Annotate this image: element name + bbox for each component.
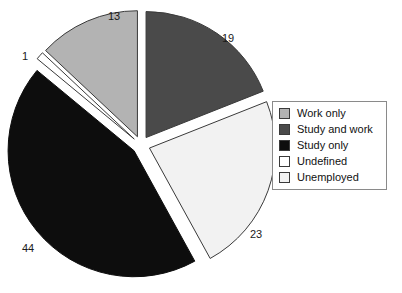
pie-value-label-study-and-work: 19: [222, 32, 234, 44]
pie-value-label-undefined: 1: [22, 50, 28, 62]
legend-item-unemployed[interactable]: Unemployed: [279, 170, 381, 185]
pie-value-label-study-only: 44: [22, 242, 34, 254]
legend-swatch-study-only: [279, 140, 290, 151]
legend-swatch-study-and-work: [279, 124, 290, 135]
pie-slice-group: [8, 11, 275, 277]
legend-swatch-undefined: [279, 156, 290, 167]
legend-item-study-and-work[interactable]: Study and work: [279, 122, 381, 137]
legend-label-study-and-work: Study and work: [297, 124, 373, 135]
legend-swatch-work-only: [279, 108, 290, 119]
legend-item-study-only[interactable]: Study only: [279, 138, 381, 153]
legend-label-work-only: Work only: [297, 108, 346, 119]
legend-item-undefined[interactable]: Undefined: [279, 154, 381, 169]
chart-legend: Work only Study and work Study only Unde…: [272, 101, 387, 190]
legend-label-unemployed: Unemployed: [297, 172, 359, 183]
legend-label-undefined: Undefined: [297, 156, 347, 167]
pie-value-label-work-only: 13: [108, 10, 120, 22]
legend-swatch-unemployed: [279, 172, 290, 183]
legend-label-study-only: Study only: [297, 140, 348, 151]
pie-value-label-unemployed: 23: [250, 228, 262, 240]
pie-chart-figure: 192344113 Work only Study and work Study…: [0, 0, 402, 293]
legend-item-work-only[interactable]: Work only: [279, 106, 381, 121]
